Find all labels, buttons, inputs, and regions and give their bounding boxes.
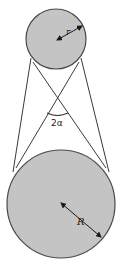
- small-circle: [26, 9, 86, 69]
- large-circle: [7, 150, 115, 258]
- two-circle-tangent-diagram: r 2α R: [0, 0, 120, 266]
- angle-label: 2α: [51, 118, 63, 128]
- tangent-line-right: [81, 58, 109, 172]
- tangent-line-left: [13, 58, 31, 172]
- large-radius-label: R: [76, 216, 85, 227]
- angle-arc: [47, 113, 68, 116]
- diagram-canvas: r 2α R: [0, 0, 120, 266]
- small-radius-label: r: [66, 27, 71, 37]
